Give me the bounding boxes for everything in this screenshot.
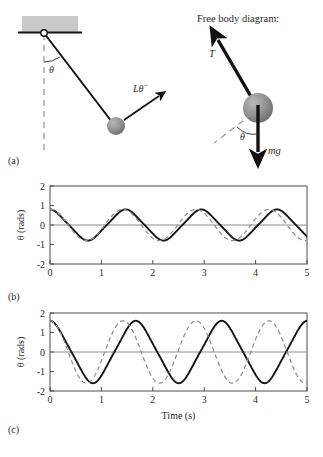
x-tick-label: 1 <box>99 394 104 405</box>
panel-c-chart: 012345-2-1012θ (rads)Time (s) <box>0 305 323 433</box>
x-tick-label: 5 <box>305 267 310 278</box>
x-tick-label: 3 <box>202 394 207 405</box>
y-axis-label: θ (rads) <box>15 210 27 241</box>
theta-label-schematic: θ <box>49 64 54 75</box>
x-tick-label: 1 <box>99 267 104 278</box>
y-tick-label: 1 <box>40 327 45 338</box>
y-tick-label: 2 <box>40 308 45 319</box>
acceleration-arrow <box>124 96 159 120</box>
y-tick-label: 2 <box>40 181 45 192</box>
acceleration-label: Lθ̈ <box>132 83 147 94</box>
x-tick-label: 4 <box>253 267 258 278</box>
x-tick-label: 2 <box>150 267 155 278</box>
pendulum-rod <box>44 33 112 122</box>
y-tick-label: -2 <box>37 259 45 270</box>
y-tick-label: 0 <box>40 220 45 231</box>
x-tick-label: 0 <box>48 394 53 405</box>
weight-label: mg <box>268 145 281 156</box>
tension-label: T <box>209 48 216 59</box>
y-tick-label: 1 <box>40 200 45 211</box>
panel-label-b: (b) <box>8 291 20 302</box>
pendulum-figure: θ Lθ̈ Free body diagram: T <box>0 0 323 457</box>
panel-a-diagram: θ Lθ̈ Free body diagram: T <box>0 0 323 170</box>
x-tick-label: 2 <box>150 394 155 405</box>
fbd-title: Free body diagram: <box>197 13 279 24</box>
panel-b-chart: 012345-2-1012θ (rads) <box>0 180 323 290</box>
ceiling-block <box>22 16 78 32</box>
x-tick-label: 4 <box>253 394 258 405</box>
pendulum-bob <box>107 117 125 135</box>
x-axis-label: Time (s) <box>162 410 196 422</box>
fbd-reference-dashed-line <box>214 114 252 143</box>
x-tick-label: 0 <box>48 267 53 278</box>
y-tick-label: -2 <box>37 386 45 397</box>
y-axis-label: θ (rads) <box>15 337 27 368</box>
panel-label-a: (a) <box>8 155 19 166</box>
theta-angle-arc <box>44 57 60 62</box>
y-tick-label: -1 <box>37 239 45 250</box>
x-tick-label: 3 <box>202 267 207 278</box>
y-tick-label: 0 <box>40 347 45 358</box>
panel-label-c: (c) <box>8 424 19 435</box>
tension-arrow <box>218 40 253 100</box>
y-tick-label: -1 <box>37 366 45 377</box>
pivot-joint <box>41 30 47 36</box>
fbd-theta-label: θ <box>240 131 245 142</box>
x-tick-label: 5 <box>305 394 310 405</box>
